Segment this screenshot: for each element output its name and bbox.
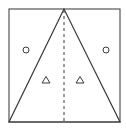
geometry-diagram	[0, 0, 126, 128]
circle-marker-left	[23, 47, 29, 53]
triangle-marker-right	[76, 77, 84, 84]
circle-marker-right	[103, 47, 109, 53]
triangle-marker-left	[42, 77, 50, 84]
